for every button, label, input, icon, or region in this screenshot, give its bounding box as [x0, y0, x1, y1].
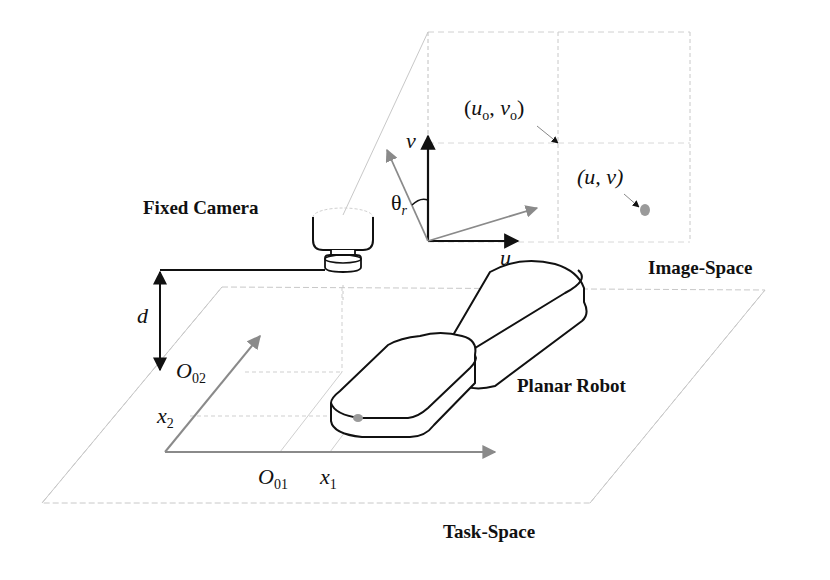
planar-robot-label: Planar Robot: [517, 376, 626, 395]
image-axis-v-label: v: [406, 130, 416, 152]
task-space-label: Task-Space: [443, 522, 535, 541]
end-effector-point: [353, 414, 363, 422]
distance-d-label: d: [137, 305, 148, 327]
image-axis-u-label: u: [500, 247, 511, 269]
image-feature-point: [640, 204, 650, 216]
origin-o02-label: O02: [176, 360, 206, 386]
fixed-camera-icon: [313, 208, 373, 272]
task-axis-x1-label: x1: [320, 466, 337, 492]
task-axis-x2-label: x2: [157, 405, 174, 431]
rotation-angle-label: θr: [391, 192, 407, 218]
rotation-angle-arc: [412, 199, 428, 205]
fixed-camera-label: Fixed Camera: [143, 198, 259, 217]
planar-robot-icon: [331, 261, 587, 437]
camera-robot-diagram: Fixed Camera Image-Space Task-Space Plan…: [0, 0, 830, 580]
image-space-label: Image-Space: [648, 258, 752, 277]
image-point-label: (u, v): [577, 166, 623, 188]
principal-point-label: (uo, vo): [464, 97, 524, 123]
distance-indicator: [160, 270, 325, 370]
diagram-canvas: [0, 0, 830, 580]
origin-o01-label: O01: [258, 466, 288, 492]
